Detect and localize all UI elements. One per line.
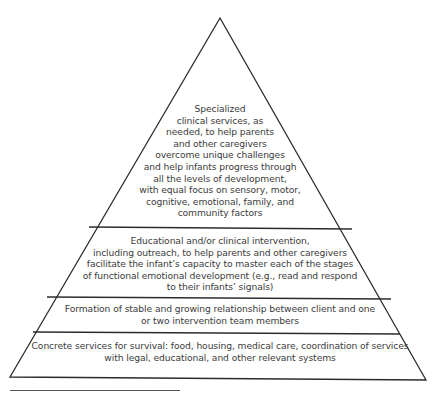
tier-4-line: Specialized	[110, 103, 330, 115]
divider-tier2-tier1	[33, 332, 400, 334]
tier-4-specialized-clinical-services: Specialized clinical services, as needed…	[110, 103, 330, 219]
tier-3-line: Educational and/or clinical intervention…	[60, 235, 380, 247]
divider-tier3-tier2	[47, 297, 391, 299]
tier-1-line: with legal, educational, and other relev…	[25, 352, 415, 364]
tier-4-line: all the levels of development,	[110, 173, 330, 185]
tier-4-line: clinical services, as	[110, 115, 330, 127]
tier-2-relationship-formation: Formation of stable and growing relation…	[50, 303, 390, 326]
tier-3-line: facilitate the infant’s capacity to mast…	[60, 258, 380, 270]
tier-3-line: to their infants’ signals)	[60, 281, 380, 293]
tier-4-line: needed, to help parents	[110, 126, 330, 138]
tier-4-line: and other caregivers	[110, 138, 330, 150]
tier-3-educational-clinical-intervention: Educational and/or clinical intervention…	[60, 235, 380, 293]
tier-3-line: of functional emotional development (e.g…	[60, 270, 380, 282]
divider-tier4-tier3	[89, 227, 352, 229]
tier-4-line: and help infants progress through	[110, 161, 330, 173]
tier-2-line: Formation of stable and growing relation…	[50, 303, 390, 315]
tier-2-line: or two intervention team members	[50, 315, 390, 327]
tier-1-line: Concrete services for survival: food, ho…	[25, 340, 415, 352]
footnote-rule	[10, 390, 180, 391]
tier-1-concrete-services: Concrete services for survival: food, ho…	[25, 340, 415, 363]
tier-4-line: overcome unique challenges	[110, 149, 330, 161]
tier-4-line: with equal focus on sensory, motor,	[110, 184, 330, 196]
tier-3-line: including outreach, to help parents and …	[60, 247, 380, 259]
tier-4-line: community factors	[110, 207, 330, 219]
tier-4-line: cognitive, emotional, family, and	[110, 196, 330, 208]
